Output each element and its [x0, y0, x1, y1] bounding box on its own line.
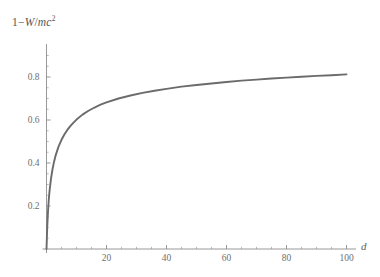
x-tick-label: 60 — [222, 253, 232, 263]
y-tick-label: 0.4 — [28, 158, 40, 168]
data-series-curve — [47, 74, 347, 249]
x-tick-label: 100 — [339, 253, 354, 263]
chart-figure: 1−W/mc2 d 20406080100 0.20.40.60.8 — [0, 0, 380, 277]
x-axis-major-ticks — [107, 245, 347, 249]
y-axis-tick-labels: 0.20.40.60.8 — [28, 72, 40, 211]
y-tick-label: 0.8 — [28, 72, 40, 82]
x-tick-label: 40 — [162, 253, 172, 263]
x-tick-label: 20 — [102, 253, 112, 263]
x-axis-tick-labels: 20406080100 — [102, 253, 354, 263]
plot-area: 20406080100 0.20.40.60.8 — [0, 0, 380, 277]
y-tick-label: 0.6 — [28, 115, 40, 125]
y-tick-label: 0.2 — [28, 201, 40, 211]
x-tick-label: 80 — [282, 253, 292, 263]
